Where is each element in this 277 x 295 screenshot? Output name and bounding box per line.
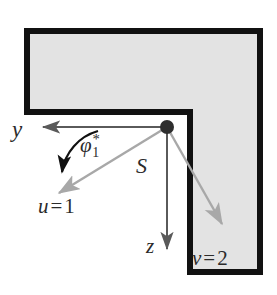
u-relation: = bbox=[49, 194, 65, 218]
u-value: 1 bbox=[64, 194, 75, 218]
v-symbol: v bbox=[192, 246, 201, 270]
label-z: z bbox=[146, 236, 154, 257]
corner-node bbox=[160, 120, 174, 134]
phi-subscript: 1 bbox=[92, 145, 99, 160]
label-u-equals-1: u=1 bbox=[38, 196, 75, 217]
u-axis-arrow bbox=[59, 127, 167, 193]
v-value: 2 bbox=[217, 246, 228, 270]
v-relation: = bbox=[201, 246, 217, 270]
label-s: S bbox=[136, 155, 147, 177]
phi-superscript: * bbox=[93, 131, 100, 147]
label-phi-star: φ1* bbox=[80, 132, 100, 160]
u-symbol: u bbox=[38, 194, 49, 218]
diagram-canvas bbox=[0, 0, 277, 295]
l-shaped-body bbox=[27, 31, 260, 272]
phi-symbol: φ bbox=[80, 133, 92, 157]
label-v-equals-2: v=2 bbox=[192, 248, 228, 269]
label-y: y bbox=[12, 118, 22, 141]
figure-root: y φ1* u=1 S z v=2 bbox=[0, 0, 277, 295]
